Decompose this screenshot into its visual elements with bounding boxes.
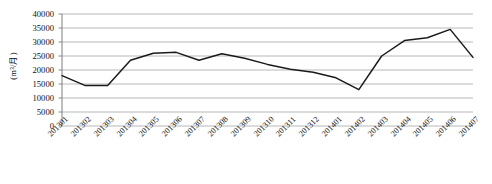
plot-area	[62, 14, 473, 126]
y-tick-label: 25000	[33, 52, 54, 61]
line-chart: (m³/月) 400003500030000250002000015000100…	[0, 0, 492, 184]
series-polyline	[62, 29, 473, 89]
y-tick-label: 30000	[33, 38, 54, 47]
y-tick-label: 20000	[33, 66, 54, 75]
x-axis-tick-labels: 2013012013022013032013042013052013062013…	[0, 126, 492, 184]
y-tick-label: 40000	[33, 10, 54, 19]
data-series-line	[62, 14, 473, 126]
y-tick-label: 15000	[33, 80, 54, 89]
y-tick-label: 35000	[33, 24, 54, 33]
y-tick-label: 10000	[33, 94, 54, 103]
y-tick-label: 5000	[37, 108, 54, 117]
